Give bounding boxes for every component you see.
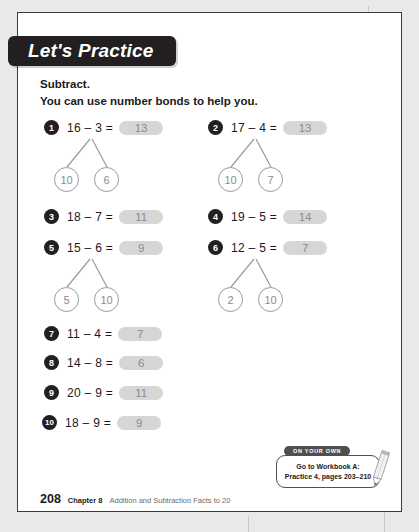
problem-expression: 20 – 9 = bbox=[67, 386, 113, 400]
page-number: 208 bbox=[40, 492, 61, 506]
problem-number-badge: 3 bbox=[44, 209, 59, 224]
bond-part-right: 7 bbox=[258, 167, 283, 192]
problem-number-badge: 4 bbox=[208, 209, 223, 224]
problem-number-badge: 7 bbox=[44, 326, 59, 341]
instruction-line-2: You can use number bonds to help you. bbox=[40, 93, 258, 110]
problem-10: 10 18 – 9 = 9 bbox=[42, 415, 161, 430]
answer-blank[interactable]: 6 bbox=[119, 356, 163, 370]
problem-expression: 17 – 4 = bbox=[231, 121, 277, 135]
number-bond-6: 2 10 bbox=[214, 255, 329, 317]
on-your-own-callout: ON YOUR OWN Go to Workbook A: Practice 4… bbox=[276, 446, 394, 490]
bond-part-left: 5 bbox=[54, 287, 79, 312]
problem-8: 8 14 – 8 = 6 bbox=[44, 355, 163, 370]
answer-blank[interactable]: 7 bbox=[283, 241, 327, 255]
problem-number-badge: 5 bbox=[44, 240, 59, 255]
chapter-label: Chapter 8 bbox=[68, 496, 103, 505]
answer-blank[interactable]: 9 bbox=[119, 241, 163, 255]
problem-number-badge: 9 bbox=[44, 385, 59, 400]
chapter-title: Addition and Subtraction Facts to 20 bbox=[109, 496, 230, 505]
callout-tab-label: ON YOUR OWN bbox=[284, 446, 350, 456]
answer-blank[interactable]: 11 bbox=[119, 210, 163, 224]
problem-expression: 19 – 5 = bbox=[231, 210, 277, 224]
instruction-line-1: Subtract. bbox=[40, 76, 258, 93]
problem-expression: 18 – 7 = bbox=[67, 210, 113, 224]
problem-expression: 18 – 9 = bbox=[65, 416, 111, 430]
problem-7: 7 11 – 4 = 7 bbox=[44, 326, 162, 341]
number-bond-1: 10 6 bbox=[50, 135, 165, 197]
problem-number-badge: 8 bbox=[44, 355, 59, 370]
bond-part-left: 2 bbox=[218, 287, 243, 312]
pencil-icon bbox=[370, 450, 392, 490]
problem-number-badge: 6 bbox=[208, 240, 223, 255]
callout-box[interactable]: Go to Workbook A: Practice 4, pages 203–… bbox=[276, 455, 380, 488]
problem-5: 5 15 – 6 = 9 bbox=[44, 240, 163, 255]
problem-3: 3 18 – 7 = 11 bbox=[44, 209, 163, 224]
problem-expression: 14 – 8 = bbox=[67, 356, 113, 370]
answer-blank[interactable]: 11 bbox=[119, 386, 163, 400]
bond-part-right: 10 bbox=[258, 287, 283, 312]
problem-expression: 16 – 3 = bbox=[67, 121, 113, 135]
problem-1: 1 16 – 3 = 13 bbox=[44, 120, 163, 135]
section-banner: Let's Practice bbox=[8, 36, 176, 66]
problem-expression: 11 – 4 = bbox=[67, 327, 112, 341]
section-title: Let's Practice bbox=[28, 40, 154, 62]
answer-blank[interactable]: 7 bbox=[118, 327, 162, 341]
instructions: Subtract. You can use number bonds to he… bbox=[40, 76, 258, 109]
number-bond-2: 10 7 bbox=[214, 135, 329, 197]
worksheet-page: Let's Practice Subtract. You can use num… bbox=[0, 0, 419, 532]
margin-rule-left bbox=[248, 516, 249, 532]
problem-expression: 12 – 5 = bbox=[231, 241, 277, 255]
answer-blank[interactable]: 13 bbox=[283, 121, 327, 135]
problem-expression: 15 – 6 = bbox=[67, 241, 113, 255]
callout-line-2: Practice 4, pages 203–210 bbox=[281, 472, 375, 482]
bond-part-left: 10 bbox=[54, 167, 79, 192]
callout-line-1: Go to Workbook A: bbox=[281, 462, 375, 472]
bond-part-left: 10 bbox=[218, 167, 243, 192]
problem-2: 2 17 – 4 = 13 bbox=[208, 120, 327, 135]
answer-blank[interactable]: 9 bbox=[117, 416, 161, 430]
problem-number-badge: 2 bbox=[208, 120, 223, 135]
bond-part-right: 6 bbox=[94, 167, 119, 192]
problem-6: 6 12 – 5 = 7 bbox=[208, 240, 327, 255]
answer-blank[interactable]: 13 bbox=[119, 121, 163, 135]
problem-4: 4 19 – 5 = 14 bbox=[208, 209, 327, 224]
problem-9: 9 20 – 9 = 11 bbox=[44, 385, 163, 400]
number-bond-5: 5 10 bbox=[50, 255, 165, 317]
problem-number-badge: 1 bbox=[44, 120, 59, 135]
page-footer: 208 Chapter 8 Addition and Subtraction F… bbox=[40, 492, 230, 506]
answer-blank[interactable]: 14 bbox=[283, 210, 327, 224]
problem-number-badge: 10 bbox=[42, 415, 57, 430]
bond-part-right: 10 bbox=[94, 287, 119, 312]
